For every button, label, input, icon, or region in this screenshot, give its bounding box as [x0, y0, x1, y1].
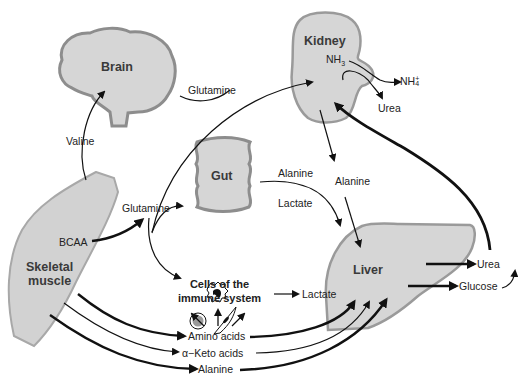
liver-shape — [326, 224, 475, 331]
gut-label: Gut — [211, 170, 233, 184]
immune-cells-label-line2: immune system — [178, 292, 261, 306]
kidney-label: Kidney — [304, 35, 346, 49]
skeletal-muscle-label-line1: Skeletal — [26, 261, 73, 275]
amino-acids-label: Amino acids — [188, 331, 245, 342]
immune-cells-label-line1: Cells of the — [178, 278, 261, 292]
bcaa-label: BCAA — [59, 237, 88, 248]
glutamine-top-label: Glutamine — [188, 85, 236, 96]
nh4-text: NH — [400, 75, 415, 87]
nh3-label: NH3 — [326, 54, 345, 67]
skeletal-muscle-label-line2: muscle — [26, 275, 73, 289]
lactate-gut-label: Lactate — [278, 198, 312, 209]
valine-label: Valine — [66, 136, 94, 147]
alpha-keto-acids-label: α−Keto acids — [182, 348, 243, 359]
nh4-subscript: 4 — [415, 82, 419, 87]
skeletal-muscle-label: Skeletal muscle — [26, 261, 73, 289]
glucose-label: Glucose — [459, 281, 498, 292]
brain-label: Brain — [101, 61, 133, 75]
metabolic-flow-diagram — [0, 0, 530, 383]
alanine-gut-label: Alanine — [278, 168, 313, 179]
skeletal-muscle-shape — [9, 172, 118, 346]
nh3-subscript: 3 — [341, 60, 345, 67]
immune-cells-label: Cells of the immune system — [178, 278, 261, 306]
liver-label: Liver — [353, 264, 383, 278]
lactate-immune-label: Lactate — [302, 289, 336, 300]
nh4-label: NH+4 — [400, 76, 419, 87]
lymphocyte-icon — [190, 313, 206, 329]
glutamine-mid-label: Glutamine — [122, 203, 170, 214]
alanine-kidney-label: Alanine — [335, 176, 370, 187]
urea-kidney-label: Urea — [378, 103, 401, 114]
urea-liver-label: Urea — [477, 259, 500, 270]
brain-shape — [60, 28, 176, 126]
alanine-bottom-label: Alanine — [198, 364, 233, 375]
nh3-text: NH — [326, 53, 341, 65]
